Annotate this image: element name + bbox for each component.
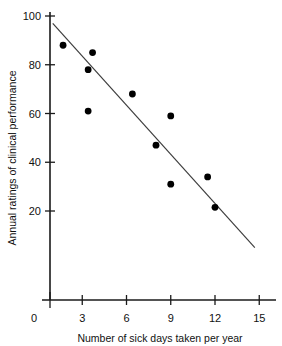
data-point — [212, 204, 219, 211]
x-tick-label: 12 — [209, 312, 221, 324]
data-point — [60, 42, 67, 49]
trend-line — [53, 23, 255, 247]
data-point — [85, 66, 92, 73]
data-point — [167, 181, 174, 188]
data-point — [153, 142, 160, 149]
y-tick-label: 100 — [23, 10, 41, 22]
x-axis-title: Number of sick days taken per year — [77, 332, 243, 344]
scatter-chart: 2040608010003691215Number of sick days t… — [0, 0, 282, 346]
x-tick-label: 9 — [168, 312, 174, 324]
y-axis-title: Annual ratings of clinical performance — [6, 70, 18, 245]
data-point — [129, 91, 136, 98]
x-tick-label: 6 — [123, 312, 129, 324]
x-tick-label: 0 — [31, 312, 37, 324]
y-tick-label: 60 — [29, 108, 41, 120]
x-tick-label: 3 — [79, 312, 85, 324]
data-point — [85, 108, 92, 115]
data-point — [167, 113, 174, 120]
x-tick-label: 15 — [253, 312, 265, 324]
y-tick-label: 40 — [29, 156, 41, 168]
data-point — [204, 173, 211, 180]
plot-area: 2040608010003691215Number of sick days t… — [0, 0, 282, 346]
y-tick-label: 80 — [29, 59, 41, 71]
data-point — [89, 49, 96, 56]
y-tick-label: 20 — [29, 205, 41, 217]
